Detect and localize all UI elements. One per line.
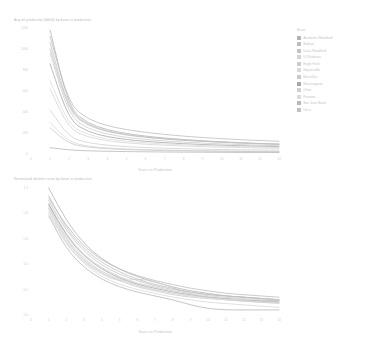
legend-item[interactable]: Cana Woodford: [297, 48, 377, 54]
legend-item-label: Bakken: [303, 42, 314, 46]
legend-item-label: Mississippian: [303, 82, 323, 86]
legend-item-label: Other: [303, 88, 311, 92]
x-tick-label: 10: [220, 157, 224, 161]
series-line: [50, 49, 279, 144]
legend-item-label: Marcellus: [303, 75, 317, 79]
legend-item-label: Eagle Ford: [303, 62, 319, 66]
x-tick-label: 0: [30, 157, 32, 161]
x-tick-label: 0: [30, 318, 32, 322]
y-tick-label: 0.6: [24, 237, 28, 241]
legend-item[interactable]: Permian: [297, 94, 377, 100]
series-line: [50, 81, 279, 148]
x-tick-label: 12: [242, 318, 246, 322]
chart-panel-bottom: Normalized decline curve by basin in pro…: [0, 174, 380, 339]
x-tick-label: 12: [258, 157, 262, 161]
x-tick-label: 8: [183, 157, 185, 161]
plot-area-bottom: [31, 188, 279, 315]
x-tick-label: 11: [239, 157, 242, 161]
x-axis-label-bottom: Years on Production: [138, 330, 172, 334]
x-axis-ticks-top: 012345678910111213: [31, 157, 279, 165]
y-tick-label: 800: [23, 68, 28, 72]
legend-swatch-icon: [297, 62, 301, 66]
legend-item[interactable]: DJ Niobrara: [297, 54, 377, 60]
legend: Basin Anadarko WoodfordBakkenCana Woodfo…: [297, 28, 377, 114]
x-tick-label: 7: [154, 318, 156, 322]
legend-swatch-icon: [297, 88, 301, 92]
series-line: [49, 213, 279, 307]
y-tick-label: 600: [23, 89, 28, 93]
figure-container: Avg oil production (bbl/d) by basin in p…: [0, 0, 380, 349]
legend-swatch-icon: [297, 101, 301, 105]
legend-swatch-icon: [297, 75, 301, 79]
legend-swatch-icon: [297, 42, 301, 46]
legend-item-label: Haynesville: [303, 68, 320, 72]
x-axis-label-top: Years on Production: [138, 168, 172, 172]
y-tick-label: 200: [23, 131, 28, 135]
line-series-bottom: [31, 188, 279, 315]
legend-item[interactable]: Other: [297, 87, 377, 93]
legend-item-label: San Juan Basin: [303, 101, 326, 105]
legend-title: Basin: [297, 28, 377, 32]
legend-swatch-icon: [297, 95, 301, 99]
legend-swatch-icon: [297, 82, 301, 86]
legend-swatch-icon: [297, 55, 301, 59]
x-tick-label: 3: [87, 157, 89, 161]
chart-title-top: Avg oil production (bbl/d) by basin in p…: [14, 18, 91, 22]
legend-item-label: Permian: [303, 95, 315, 99]
x-tick-label: 11: [224, 318, 227, 322]
y-tick-label: 0: [26, 152, 28, 156]
y-tick-label: 0.0: [24, 313, 28, 317]
x-tick-label: 1: [48, 318, 50, 322]
series-line: [50, 123, 279, 152]
y-tick-label: 0.8: [24, 211, 28, 215]
series-line: [50, 53, 279, 146]
y-axis-ticks-bottom: 0.00.20.40.60.81.0: [0, 188, 28, 315]
legend-item-label: DJ Niobrara: [303, 55, 321, 59]
x-tick-label: 14: [277, 318, 281, 322]
legend-item[interactable]: Mississippian: [297, 81, 377, 87]
plot-area-top: [31, 28, 279, 154]
legend-item[interactable]: Utica: [297, 107, 377, 113]
y-tick-label: 1200: [21, 26, 28, 30]
legend-item[interactable]: Anadarko Woodford: [297, 35, 377, 41]
legend-item-label: Cana Woodford: [303, 49, 326, 53]
legend-item[interactable]: Haynesville: [297, 67, 377, 73]
legend-item[interactable]: San Juan Basin: [297, 100, 377, 106]
legend-item[interactable]: Bakken: [297, 41, 377, 47]
line-series-top: [31, 28, 279, 154]
y-tick-label: 0.2: [24, 288, 28, 292]
legend-item-label: Utica: [303, 108, 311, 112]
x-tick-label: 13: [260, 318, 264, 322]
x-tick-label: 4: [106, 157, 108, 161]
legend-item-list: Anadarko WoodfordBakkenCana WoodfordDJ N…: [297, 35, 377, 114]
x-tick-label: 6: [136, 318, 138, 322]
x-tick-label: 7: [164, 157, 166, 161]
legend-swatch-icon: [297, 68, 301, 72]
legend-item[interactable]: Marcellus: [297, 74, 377, 80]
legend-item[interactable]: Eagle Ford: [297, 61, 377, 67]
series-line: [50, 30, 279, 144]
chart-title-bottom: Normalized decline curve by basin in pro…: [14, 177, 92, 181]
x-tick-label: 2: [66, 318, 68, 322]
x-tick-label: 6: [145, 157, 147, 161]
x-tick-label: 4: [101, 318, 103, 322]
legend-swatch-icon: [297, 108, 301, 112]
legend-swatch-icon: [297, 36, 301, 40]
x-tick-label: 9: [202, 157, 204, 161]
y-tick-label: 400: [23, 110, 28, 114]
y-axis-ticks-top: 020040060080010001200: [0, 28, 28, 154]
x-tick-label: 5: [119, 318, 121, 322]
x-tick-label: 10: [206, 318, 210, 322]
legend-swatch-icon: [297, 49, 301, 53]
y-tick-label: 0.4: [24, 262, 28, 266]
y-tick-label: 1000: [21, 47, 28, 51]
x-tick-label: 3: [83, 318, 85, 322]
x-tick-label: 5: [125, 157, 127, 161]
x-tick-label: 2: [68, 157, 70, 161]
x-tick-label: 9: [190, 318, 192, 322]
x-tick-label: 8: [172, 318, 174, 322]
legend-item-label: Anadarko Woodford: [303, 36, 332, 40]
x-axis-ticks-bottom: 01234567891011121314: [31, 318, 279, 326]
x-tick-label: 1: [49, 157, 51, 161]
y-tick-label: 1.0: [24, 186, 28, 190]
